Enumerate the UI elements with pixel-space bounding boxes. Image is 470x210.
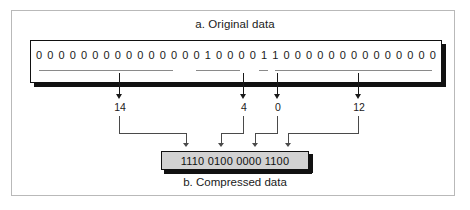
group-arrow-stem-4 <box>358 73 359 95</box>
connector-2-vertical-in <box>243 116 244 134</box>
group-arrow-stem-3 <box>277 73 278 95</box>
compressed-data-box: 1110 0100 0000 1100 <box>161 151 309 170</box>
bit-cell: 0 <box>360 46 370 64</box>
run-count-label-4: 12 <box>339 101 379 113</box>
connector-3-horizontal <box>255 133 278 134</box>
group-arrow-head-4 <box>355 94 361 99</box>
bit-cell: 0 <box>113 46 123 64</box>
connector-2-arrowhead <box>218 143 224 147</box>
bit-cell: 0 <box>158 46 168 64</box>
connector-4-vertical-in <box>358 116 359 134</box>
bit-cell: 0 <box>225 46 235 64</box>
bit-cell: 0 <box>293 46 303 64</box>
bit-cell: 0 <box>102 46 112 64</box>
bit-cell: 0 <box>327 46 337 64</box>
group-arrow-stem-1 <box>119 73 120 95</box>
bit-cell: 0 <box>135 46 145 64</box>
connector-1-vertical-in <box>119 116 120 134</box>
bit-cell: 0 <box>338 46 348 64</box>
bit-cell: 0 <box>349 46 359 64</box>
bit-cell: 0 <box>304 46 314 64</box>
group-underline-3 <box>259 70 268 71</box>
connector-4-horizontal <box>288 133 359 134</box>
bit-cell: 1 <box>203 46 213 64</box>
connector-1-arrowhead <box>183 143 189 147</box>
bit-cell: 0 <box>45 46 55 64</box>
original-box-shadow-bottom <box>34 83 446 87</box>
group-arrow-head-2 <box>240 94 246 99</box>
bit-cell: 0 <box>372 46 382 64</box>
bit-cell: 0 <box>394 46 404 64</box>
connector-3-vertical-in <box>277 116 278 134</box>
bit-cell: 0 <box>147 46 157 64</box>
bit-cell: 0 <box>237 46 247 64</box>
bit-cell: 0 <box>34 46 44 64</box>
connector-3-arrowhead <box>252 143 258 147</box>
bit-cell: 0 <box>315 46 325 64</box>
group-arrow-head-1 <box>116 94 122 99</box>
bit-cell: 1 <box>259 46 269 64</box>
caption-original-data: a. Original data <box>0 18 470 30</box>
bit-cell: 0 <box>282 46 292 64</box>
group-arrow-head-3 <box>274 94 280 99</box>
compressed-box-shadow-bottom <box>164 170 312 174</box>
bit-cell: 0 <box>192 46 202 64</box>
bit-cell: 0 <box>169 46 179 64</box>
group-underline-1 <box>39 70 173 71</box>
bit-cell: 0 <box>383 46 393 64</box>
bit-cell: 0 <box>405 46 415 64</box>
caption-compressed-data: b. Compressed data <box>0 176 470 188</box>
bit-cell: 0 <box>180 46 190 64</box>
connector-1-horizontal <box>119 133 187 134</box>
bit-cell: 0 <box>248 46 258 64</box>
compressed-box-shadow-right <box>309 154 313 173</box>
run-length-encoding-figure: a. Original data 0 0 0 0 0 0 0 0 0 0 0 0… <box>0 0 470 210</box>
run-count-label-1: 14 <box>100 101 140 113</box>
bit-cell: 0 <box>79 46 89 64</box>
original-box-shadow-right <box>442 44 446 87</box>
bit-cell: 0 <box>428 46 438 64</box>
run-count-label-3: 0 <box>258 101 298 113</box>
bit-cell: 1 <box>270 46 280 64</box>
bit-cell: 0 <box>57 46 67 64</box>
bit-cell: 0 <box>68 46 78 64</box>
connector-4-arrowhead <box>285 143 291 147</box>
bit-cell: 0 <box>214 46 224 64</box>
bit-cell: 0 <box>90 46 100 64</box>
group-arrow-stem-2 <box>243 73 244 95</box>
group-underline-2 <box>196 70 240 71</box>
bit-cell: 0 <box>124 46 134 64</box>
bit-cell: 0 <box>417 46 427 64</box>
original-bit-row: 0 0 0 0 0 0 0 0 0 0 0 0 0 0 0 1 0 0 0 0 … <box>34 46 438 64</box>
group-underline-4 <box>275 70 432 71</box>
connector-2-horizontal <box>221 133 244 134</box>
